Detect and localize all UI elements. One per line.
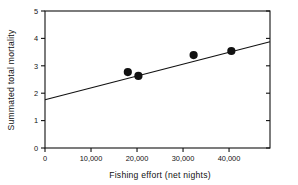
y-tick-label: 5 bbox=[34, 7, 38, 16]
data-point-marker bbox=[190, 51, 198, 59]
x-axis-tick-labels: 010,00020,00030,00040,000 bbox=[43, 154, 240, 163]
y-tick-label: 1 bbox=[34, 116, 38, 125]
x-tick-label: 0 bbox=[43, 154, 47, 163]
trend-line bbox=[45, 42, 270, 100]
data-points bbox=[124, 47, 236, 80]
y-tick-label: 4 bbox=[34, 34, 38, 43]
y-axis-title: Summated total mortality bbox=[6, 29, 16, 130]
x-tick-label: 40,000 bbox=[218, 154, 241, 163]
x-axis-title: Fishing effort (net nights) bbox=[109, 170, 211, 180]
scatter-plot: 012345 010,00020,00030,00040,000 Fishing… bbox=[0, 0, 298, 185]
x-tick-label: 20,000 bbox=[126, 154, 149, 163]
y-axis-tick-labels: 012345 bbox=[34, 7, 38, 153]
x-tick-label: 10,000 bbox=[80, 154, 103, 163]
plot-frame bbox=[45, 11, 270, 148]
data-point-marker bbox=[134, 72, 142, 80]
y-axis-ticks bbox=[41, 11, 270, 148]
data-point-marker bbox=[124, 68, 132, 76]
y-tick-label: 0 bbox=[34, 144, 38, 153]
x-axis-ticks bbox=[45, 148, 229, 152]
y-tick-label: 2 bbox=[34, 89, 38, 98]
y-tick-label: 3 bbox=[34, 62, 38, 71]
axis-box bbox=[45, 11, 270, 148]
chart-figure: 012345 010,00020,00030,00040,000 Fishing… bbox=[0, 0, 298, 185]
data-point-marker bbox=[227, 47, 235, 55]
x-tick-label: 30,000 bbox=[172, 154, 195, 163]
regression-line bbox=[45, 42, 270, 100]
